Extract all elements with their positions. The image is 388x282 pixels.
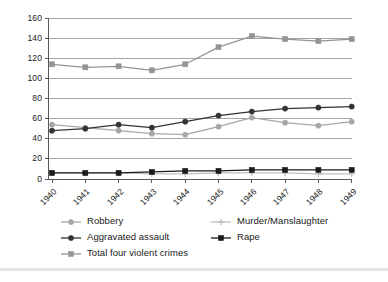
data-point-marker	[349, 167, 354, 172]
legend-marker-icon	[60, 246, 82, 258]
data-point-marker	[349, 104, 354, 109]
data-point-marker	[183, 132, 188, 137]
gridlines	[48, 18, 352, 179]
data-point-marker	[149, 125, 154, 130]
chart-legend: RobberyMurder/ManslaughterAggravated ass…	[60, 213, 370, 261]
y-tick-label: 100	[16, 73, 42, 83]
data-point-marker	[68, 219, 73, 224]
legend-label: Total four violent crimes	[87, 247, 188, 258]
data-point-marker	[216, 45, 221, 50]
data-point-marker	[316, 105, 321, 110]
data-point-marker	[83, 65, 88, 70]
data-point-marker	[216, 168, 221, 173]
data-point-marker	[50, 170, 55, 175]
legend-label: Robbery	[87, 215, 123, 226]
data-point-marker	[183, 168, 188, 173]
data-point-marker	[149, 169, 154, 174]
data-point-marker	[249, 34, 254, 39]
legend-item-aggravated-assault[interactable]: Aggravated assault	[60, 229, 169, 243]
data-point-marker	[316, 167, 321, 172]
data-point-marker	[69, 252, 74, 257]
data-point-marker	[283, 120, 288, 125]
data-point-marker	[49, 122, 54, 127]
y-tick-label: 140	[16, 33, 42, 43]
data-point-marker	[249, 109, 254, 114]
data-point-marker	[68, 235, 73, 240]
data-point-marker	[183, 119, 188, 124]
legend-item-murder-manslaughter[interactable]: Murder/Manslaughter	[210, 213, 328, 227]
series-layer	[49, 34, 355, 177]
data-point-marker	[316, 39, 321, 44]
y-tick-label: 160	[16, 13, 42, 23]
y-tick-label: 120	[16, 53, 42, 63]
series-line	[52, 170, 352, 173]
series-total-four-violent-crimes	[50, 34, 355, 73]
data-point-marker	[50, 62, 55, 67]
data-point-marker	[216, 124, 221, 129]
y-tick-label: 80	[16, 93, 42, 103]
legend-item-rape[interactable]: Rape	[210, 229, 260, 243]
data-point-marker	[116, 170, 121, 175]
y-tick-label: 40	[16, 133, 42, 143]
y-tick-label: 0	[16, 174, 42, 184]
data-point-marker	[116, 128, 121, 133]
data-point-marker	[149, 68, 154, 73]
y-tick-marks	[45, 18, 49, 179]
data-point-marker	[249, 167, 254, 172]
data-point-marker	[83, 170, 88, 175]
series-line	[52, 36, 352, 70]
chart-container: 020406080100120140160 194019411942194319…	[0, 0, 388, 282]
legend-label: Rape	[237, 231, 260, 242]
data-point-marker	[149, 131, 154, 136]
data-point-marker	[49, 128, 54, 133]
data-point-marker	[116, 64, 121, 69]
legend-marker-icon	[60, 230, 82, 242]
data-point-marker	[183, 62, 188, 67]
legend-item-robbery[interactable]: Robbery	[60, 213, 123, 227]
data-point-marker	[218, 219, 224, 225]
y-tick-label: 60	[16, 113, 42, 123]
data-point-marker	[316, 123, 321, 128]
data-point-marker	[83, 126, 88, 131]
series-line	[52, 118, 352, 135]
legend-marker-icon	[210, 214, 232, 226]
x-tick-marks	[52, 179, 352, 183]
data-point-marker	[219, 236, 224, 241]
legend-label: Murder/Manslaughter	[237, 215, 328, 226]
data-point-marker	[349, 119, 354, 124]
data-point-marker	[283, 167, 288, 172]
legend-marker-icon	[210, 230, 232, 242]
data-point-marker	[116, 122, 121, 127]
y-tick-label: 20	[16, 153, 42, 163]
legend-marker-icon	[60, 214, 82, 226]
footer-divider	[0, 268, 388, 271]
legend-label: Aggravated assault	[87, 231, 169, 242]
data-point-marker	[249, 115, 254, 120]
data-point-marker	[283, 37, 288, 42]
data-point-marker	[349, 37, 354, 42]
data-point-marker	[283, 106, 288, 111]
legend-item-total-four-violent-crimes[interactable]: Total four violent crimes	[60, 245, 188, 259]
data-point-marker	[216, 113, 221, 118]
